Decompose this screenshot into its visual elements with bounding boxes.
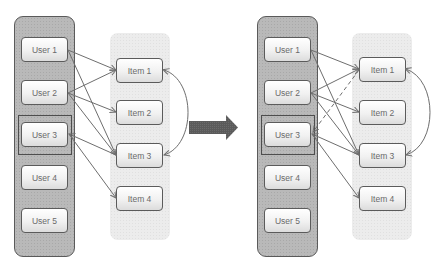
edge-item1-user3-dashed: [313, 70, 359, 132]
edge-user3-item4: [312, 134, 359, 198]
edge-layer: [0, 0, 443, 272]
recommendation-diagram: User 1 User 2 User 3 User 4 User 5 Item …: [0, 0, 443, 272]
edge-user2-item1: [68, 70, 116, 93]
edges-after: [311, 50, 430, 198]
edge-user3-item4: [69, 134, 116, 198]
right-arrow-icon: [189, 115, 238, 140]
edge-item3-user3: [69, 134, 116, 155]
edge-user1-item1: [68, 50, 116, 70]
edge-item3-user3: [312, 134, 359, 155]
edge-item1-item3-curved: [406, 69, 430, 155]
edge-item1-item3-curved: [164, 70, 188, 155]
edge-user2-item1: [311, 69, 359, 93]
edges-before: [68, 50, 188, 198]
